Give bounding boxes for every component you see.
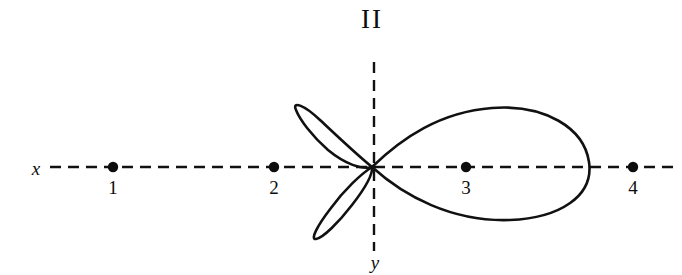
figure-panel: II x y 1 2 3 4: [0, 0, 682, 275]
point-label-2: 2: [269, 178, 279, 197]
upper-left-petal: [295, 105, 372, 168]
rose-curve: [295, 105, 589, 239]
point-dot-1[interactable]: [108, 162, 118, 172]
rose-curve-plot: [0, 0, 682, 275]
point-label-1: 1: [108, 178, 118, 197]
point-label-4: 4: [628, 178, 638, 197]
point-dot-2[interactable]: [269, 162, 279, 172]
lower-left-petal: [314, 167, 372, 239]
y-axis-label: y: [371, 253, 379, 272]
point-dot-3[interactable]: [461, 162, 471, 172]
x-axis-label: x: [32, 159, 40, 178]
point-dot-4[interactable]: [628, 162, 638, 172]
point-label-3: 3: [461, 178, 471, 197]
figure-roman-numeral: II: [361, 6, 383, 33]
right-large-petal: [372, 108, 589, 221]
